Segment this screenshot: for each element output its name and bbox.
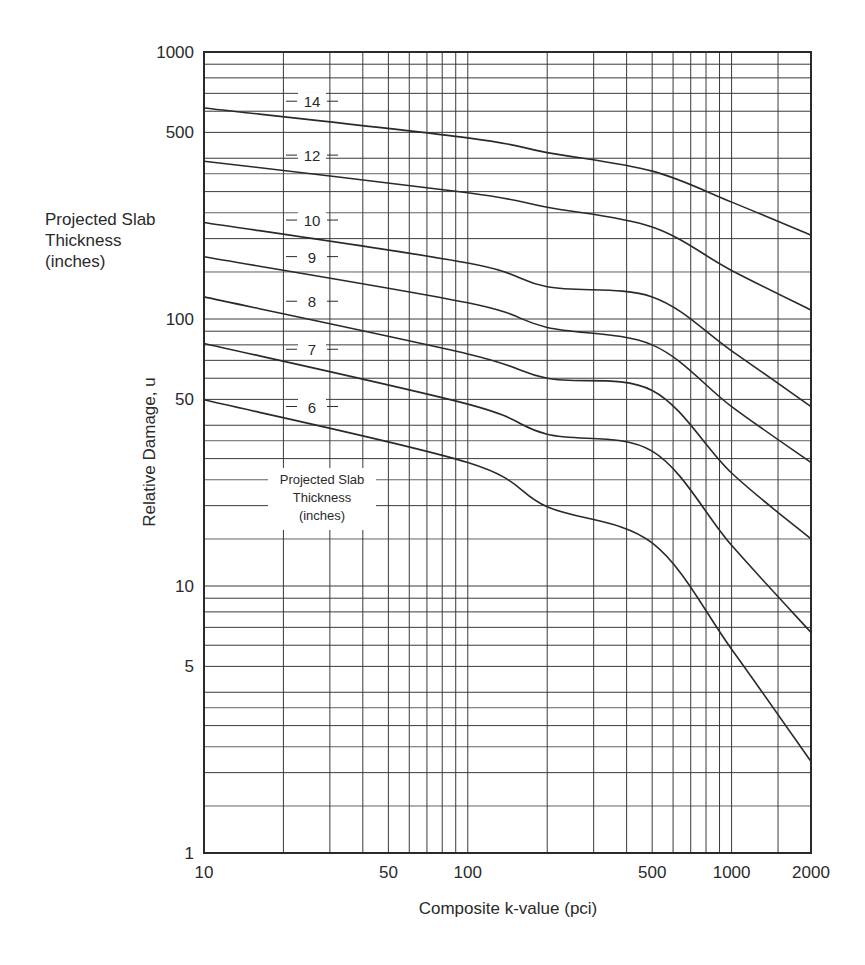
y-tick-label: 50 xyxy=(175,390,194,409)
curve-label-9: 9 xyxy=(308,249,316,266)
curve-label-14: 14 xyxy=(304,93,321,110)
curve-label-8: 8 xyxy=(308,293,316,310)
y-tick-label: 10 xyxy=(175,577,194,596)
x-tick-label: 100 xyxy=(454,863,482,882)
x-axis-title: Composite k-value (pci) xyxy=(419,899,598,918)
curve-label-6: 6 xyxy=(308,399,316,416)
curve-label-7: 7 xyxy=(308,341,316,358)
inset-line-2: Thickness xyxy=(293,490,352,505)
inset-line-1: Projected Slab xyxy=(280,472,365,487)
y-axis-title: Relative Damage, u xyxy=(140,377,159,526)
y-tick-label: 500 xyxy=(166,123,194,142)
curve-label-12: 12 xyxy=(304,147,321,164)
relative-damage-chart: 1412109876 Projected Slab Thickness (inc… xyxy=(0,0,865,965)
x-tick-label: 1000 xyxy=(713,863,751,882)
y-axis-ticks: 1510501005001000 xyxy=(156,43,194,863)
x-tick-label: 500 xyxy=(638,863,666,882)
x-axis-ticks: 105010050010002000 xyxy=(195,863,830,882)
curve-label-10: 10 xyxy=(304,212,321,229)
x-tick-label: 10 xyxy=(195,863,214,882)
y-tick-label: 100 xyxy=(166,310,194,329)
inset-line-3: (inches) xyxy=(299,508,345,523)
inset-legend-label: Projected Slab Thickness (inches) xyxy=(268,468,376,530)
y-tick-label: 5 xyxy=(185,657,194,676)
y-tick-label: 1000 xyxy=(156,43,194,62)
y-tick-label: 1 xyxy=(185,844,194,863)
x-tick-label: 50 xyxy=(379,863,398,882)
x-tick-label: 2000 xyxy=(792,863,830,882)
